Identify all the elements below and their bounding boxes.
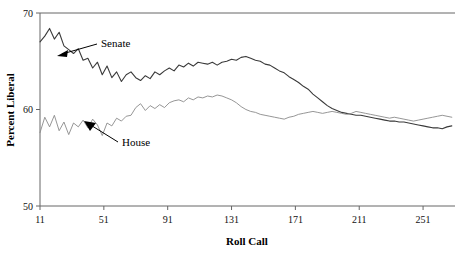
y-axis-title: Percent Liberal xyxy=(4,73,16,146)
senate-series-label: Senate xyxy=(101,37,130,49)
x-tick-label: 131 xyxy=(224,214,239,225)
x-axis-title: Roll Call xyxy=(226,235,268,247)
chart-figure: 506070 115191131171211251 Percent Libera… xyxy=(0,0,465,255)
x-tick-label: 91 xyxy=(163,214,173,225)
y-tick-label: 50 xyxy=(23,201,33,212)
y-tick-label: 60 xyxy=(23,104,33,115)
x-tick-label: 251 xyxy=(416,214,431,225)
y-tick-label: 70 xyxy=(23,8,33,19)
x-tick-label: 211 xyxy=(352,214,367,225)
x-tick-label: 171 xyxy=(288,214,303,225)
x-tick-label: 11 xyxy=(35,214,45,225)
x-tick-label: 51 xyxy=(99,214,109,225)
house-series-label: House xyxy=(122,136,150,148)
line-chart-canvas: 506070 115191131171211251 Percent Libera… xyxy=(0,0,465,255)
